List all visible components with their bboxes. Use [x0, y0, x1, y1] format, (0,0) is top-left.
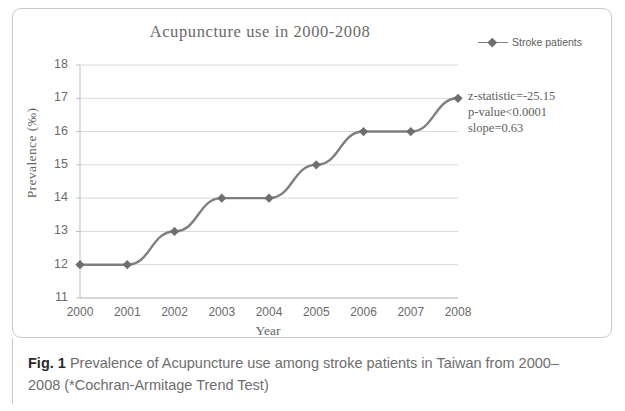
y-axis-tick-label: 18 — [42, 57, 68, 71]
data-point-marker — [217, 194, 226, 203]
data-point-marker — [406, 127, 415, 136]
caption-figure-number: Fig. 1 — [28, 355, 66, 371]
plot-area: Prevalence (‰) Year 18171615141312112000… — [0, 0, 625, 340]
data-point-marker — [312, 160, 321, 169]
line-chart-svg — [0, 0, 625, 340]
x-axis-tick-label: 2007 — [388, 305, 434, 319]
data-point-marker — [264, 194, 273, 203]
caption-body: Prevalence of Acupuncture use among stro… — [28, 355, 559, 393]
x-axis-tick-label: 2006 — [341, 305, 387, 319]
y-axis-tick-label: 12 — [42, 257, 68, 271]
y-axis-tick-label: 15 — [42, 157, 68, 171]
data-point-marker — [123, 260, 132, 269]
x-axis-tick-label: 2004 — [246, 305, 292, 319]
x-axis-tick-label: 2003 — [199, 305, 245, 319]
data-point-marker — [453, 94, 462, 103]
y-axis-tick-label: 11 — [42, 290, 68, 304]
y-axis-tick-label: 17 — [42, 90, 68, 104]
x-axis-tick-label: 2005 — [293, 305, 339, 319]
y-axis-tick-label: 14 — [42, 190, 68, 204]
data-point-marker — [170, 227, 179, 236]
series-line-stroke-patients — [80, 98, 458, 264]
figure-caption: Fig. 1 Prevalence of Acupuncture use amo… — [28, 352, 588, 396]
caption-divider — [12, 338, 13, 404]
data-point-marker — [75, 260, 84, 269]
x-axis-tick-label: 2002 — [152, 305, 198, 319]
x-axis-tick-label: 2008 — [435, 305, 481, 319]
y-axis-tick-label: 13 — [42, 223, 68, 237]
x-axis-tick-label: 2001 — [104, 305, 150, 319]
data-point-marker — [359, 127, 368, 136]
x-axis-tick-label: 2000 — [57, 305, 103, 319]
y-axis-tick-label: 16 — [42, 124, 68, 138]
